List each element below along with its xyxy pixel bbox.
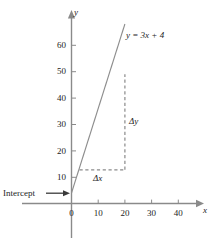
y-axis-label: y (74, 8, 78, 17)
intercept-arrowhead (63, 190, 70, 196)
y-tick-label-40: 40 (44, 94, 66, 103)
intercept-label: Intercept (3, 189, 35, 198)
y-tick-label-20: 20 (44, 147, 66, 156)
x-tick-label-10: 10 (88, 209, 108, 218)
line-graph-figure: y x 60 50 40 30 20 10 0 10 20 30 40 y = … (0, 0, 214, 252)
x-tick-label-20: 20 (115, 209, 135, 218)
x-axis-label: x (203, 206, 207, 215)
intercept-arrow (46, 190, 70, 196)
x-axis (22, 200, 204, 208)
x-tick-label-40: 40 (168, 209, 188, 218)
delta-y-label: Δy (129, 117, 138, 126)
data-line-y-equals-3x-plus-4 (72, 24, 125, 193)
x-tick-label-30: 30 (142, 209, 162, 218)
y-tick-label-30: 30 (44, 120, 66, 129)
delta-x-label: Δx (93, 174, 102, 183)
equation-label: y = 3x + 4 (126, 31, 164, 40)
y-tick-label-60: 60 (44, 41, 66, 50)
x-tick-label-0: 0 (62, 209, 82, 218)
y-tick-label-50: 50 (44, 67, 66, 76)
y-tick-label-10: 10 (44, 173, 66, 182)
